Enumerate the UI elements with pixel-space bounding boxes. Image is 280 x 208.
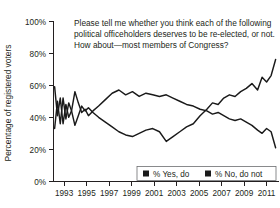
x-tick-group-2001: 2001 xyxy=(145,182,164,199)
x-tick-group-2003: 2003 xyxy=(167,182,186,199)
chart-title-block: Please tell me whether you think each of… xyxy=(74,18,275,50)
x-tick-group-1999: 1999 xyxy=(122,182,141,199)
y-tick-label-80: 80% xyxy=(30,50,46,59)
x-tick-label-2005: 2005 xyxy=(190,189,209,198)
chart-title-line-3: How about—most members of Congress? xyxy=(74,40,229,50)
x-axis: 1993 1995 1997 1999 2001 2003 2005 2007 … xyxy=(54,182,280,199)
chart-container: Please tell me whether you think each of… xyxy=(0,0,279,208)
x-tick-label-2009: 2009 xyxy=(235,189,254,198)
x-tick-group-2007: 2007 xyxy=(212,182,231,199)
legend: % Yes, do % No, do not xyxy=(137,167,276,181)
y-tick-label-60: 60% xyxy=(30,82,46,91)
x-tick-group-1997: 1997 xyxy=(100,182,119,199)
chart-title-line-1: Please tell me whether you think each of… xyxy=(74,18,272,28)
x-tick-group-1993: 1993 xyxy=(55,182,74,199)
y-tick-group-0: 0% xyxy=(34,178,53,187)
x-tick-label-1997: 1997 xyxy=(100,189,119,198)
y-tick-group-20: 20% xyxy=(30,146,54,155)
x-tick-label-2001: 2001 xyxy=(145,189,164,198)
legend-swatch-no-do-not-icon xyxy=(205,171,211,177)
y-tick-group-100: 100% xyxy=(25,18,53,27)
series-line-no-do-not xyxy=(55,60,276,142)
x-tick-label-2007: 2007 xyxy=(212,189,231,198)
y-tick-group-40: 40% xyxy=(30,114,54,123)
x-tick-group-2005: 2005 xyxy=(190,182,209,199)
chart-title-line-2: political officeholders deserves to be r… xyxy=(74,29,275,39)
y-tick-group-80: 80% xyxy=(30,50,54,59)
x-tick-label-1999: 1999 xyxy=(122,189,141,198)
x-tick-group-1995: 1995 xyxy=(77,182,96,199)
x-tick-label-2003: 2003 xyxy=(167,189,186,198)
x-tick-group-2011: 2011 xyxy=(258,182,276,199)
x-tick-label-1995: 1995 xyxy=(77,189,96,198)
y-tick-label-40: 40% xyxy=(30,114,46,123)
legend-label-no-do-not: % No, do not xyxy=(215,170,263,179)
y-axis-title: Percentage of registered voters xyxy=(3,45,13,162)
y-axis: 100% 80% 60% 40% 20% 0% xyxy=(25,18,53,187)
line-chart: Please tell me whether you think each of… xyxy=(0,0,279,208)
y-tick-label-100: 100% xyxy=(25,18,46,27)
x-tick-label-2011: 2011 xyxy=(258,189,276,198)
legend-swatch-yes-do-icon xyxy=(143,171,149,177)
y-tick-label-20: 20% xyxy=(30,146,46,155)
legend-label-yes-do: % Yes, do xyxy=(153,170,190,179)
y-tick-label-0: 0% xyxy=(34,178,46,187)
y-tick-group-60: 60% xyxy=(30,82,54,91)
series-lines xyxy=(55,60,276,148)
x-tick-label-1993: 1993 xyxy=(55,189,74,198)
x-tick-group-2009: 2009 xyxy=(235,182,254,199)
